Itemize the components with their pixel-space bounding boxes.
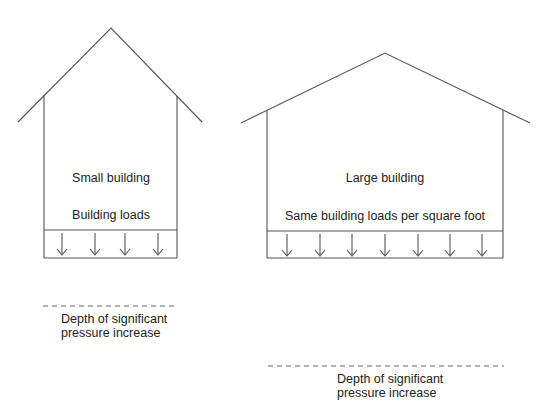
down-arrow-icon [413, 234, 423, 256]
large-building: Large building Same building loads per s… [241, 53, 530, 400]
large-building-title: Large building [346, 171, 425, 185]
large-load-arrows [282, 234, 487, 256]
down-arrow-icon [90, 233, 100, 255]
small-depth-label-1: Depth of significant [61, 312, 168, 326]
small-building-load-label: Building loads [72, 208, 150, 222]
small-depth-label-2: pressure increase [61, 326, 160, 340]
down-arrow-icon [120, 233, 130, 255]
large-depth-label-1: Depth of significant [337, 372, 444, 386]
down-arrow-icon [380, 234, 390, 256]
small-load-arrows [57, 233, 163, 255]
small-roof [18, 28, 202, 122]
large-building-load-label: Same building loads per square foot [285, 209, 486, 223]
down-arrow-icon [477, 234, 487, 256]
down-arrow-icon [445, 234, 455, 256]
down-arrow-icon [57, 233, 67, 255]
down-arrow-icon [315, 234, 325, 256]
foundation-pressure-diagram: Small building Building loads Depth of s… [0, 0, 545, 404]
small-building: Small building Building loads Depth of s… [18, 28, 202, 340]
large-roof [241, 53, 530, 123]
down-arrow-icon [347, 234, 357, 256]
down-arrow-icon [282, 234, 292, 256]
small-building-title: Small building [72, 171, 150, 185]
large-depth-label-2: pressure increase [337, 386, 436, 400]
down-arrow-icon [153, 233, 163, 255]
